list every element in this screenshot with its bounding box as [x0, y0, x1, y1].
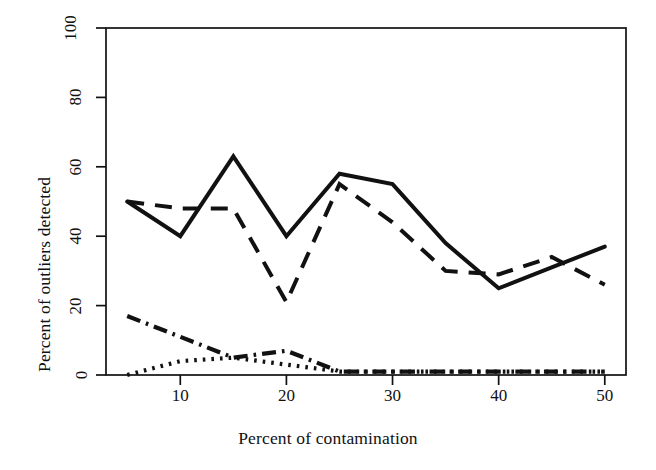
figure-background	[0, 0, 656, 470]
y-tick-label-40: 40	[66, 222, 86, 250]
y-tick-label-0: 0	[72, 367, 92, 384]
x-tick-label-20: 20	[278, 386, 295, 406]
y-tick-label-20: 20	[66, 292, 86, 320]
x-axis-title: Percent of contamination	[0, 428, 656, 449]
y-tick-label-80: 80	[66, 83, 86, 111]
y-tick-label-100: 100	[61, 9, 81, 48]
y-tick-label-60: 60	[66, 153, 86, 181]
x-tick-label-50: 50	[596, 386, 613, 406]
x-tick-label-30: 30	[384, 386, 401, 406]
y-axis-title: Percent of outliers detected	[34, 0, 55, 372]
chart-figure: Percent of contamination Percent of outl…	[0, 0, 656, 470]
x-tick-label-10: 10	[172, 386, 189, 406]
x-tick-label-40: 40	[490, 386, 507, 406]
plot-canvas	[0, 0, 656, 470]
